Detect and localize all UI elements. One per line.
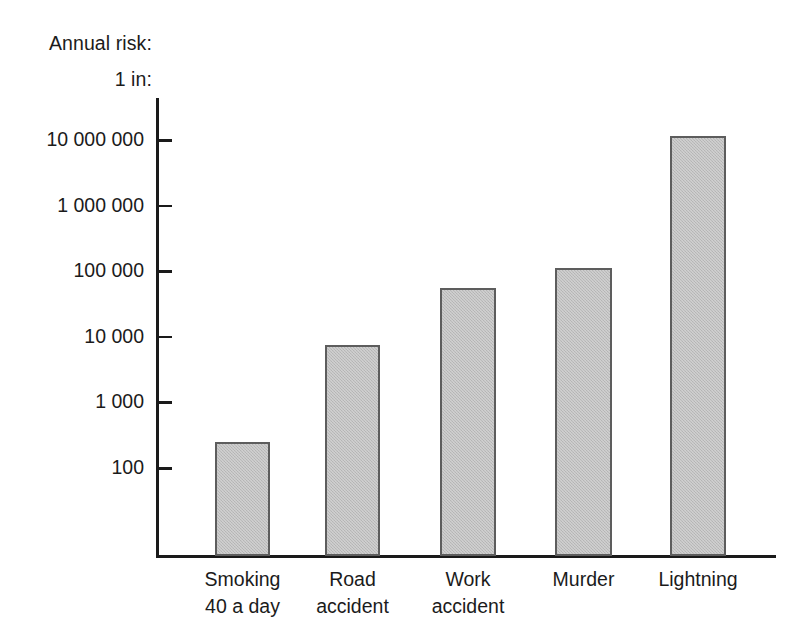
y-axis-tick-1000000	[159, 205, 172, 208]
bar-road-accident	[325, 345, 380, 556]
bar-lightning	[670, 136, 726, 556]
y-axis-tick-label: 100	[111, 457, 144, 477]
x-axis-label-lightning: Lightning	[608, 566, 788, 593]
y-axis-tick-label: 10 000	[84, 326, 144, 346]
y-axis-line	[156, 98, 159, 558]
y-axis-title-line-1: Annual risk:	[0, 30, 152, 56]
bar-smoking-40-a-day	[215, 442, 270, 556]
y-axis-tick-100	[159, 467, 172, 470]
bar-chart: Annual risk: 1 in: 1001 00010 000100 000…	[0, 0, 808, 644]
x-axis-label-line: Lightning	[608, 566, 788, 593]
bar-murder	[555, 268, 612, 556]
y-axis-tick-1000	[159, 401, 172, 404]
y-axis-tick-label: 1 000 000	[57, 195, 144, 215]
y-axis-tick-100000	[159, 270, 172, 273]
y-axis-title-line-2: 1 in:	[0, 66, 152, 92]
y-axis-tick-label: 10 000 000	[46, 129, 144, 149]
y-axis-tick-10000	[159, 336, 172, 339]
y-axis-tick-10000000	[159, 139, 172, 142]
y-axis-tick-label: 1 000	[95, 391, 144, 411]
bar-work-accident	[440, 288, 496, 556]
y-axis-tick-label: 100 000	[74, 260, 145, 280]
x-axis-label-line: accident	[378, 593, 558, 620]
